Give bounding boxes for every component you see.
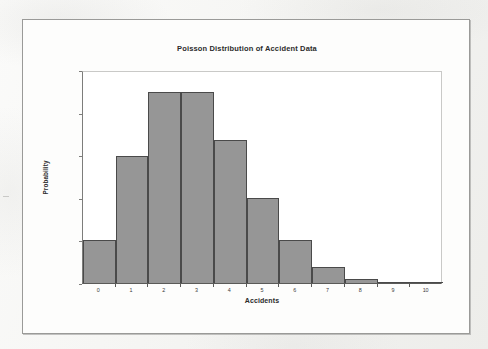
x-tick-mark [246,284,247,287]
x-tick-mark [311,284,312,287]
bar-9 [378,282,411,283]
scan-speck-artifact [443,336,457,343]
scanned-page-background: Poisson Distribution of Accident Data Pr… [0,0,488,349]
x-tick-mark [344,284,345,287]
bar-6 [279,240,312,283]
bar-1 [116,156,149,283]
x-tick-label-3: 3 [195,287,198,293]
x-tick-label-2: 2 [162,287,165,293]
plot-area [82,71,442,284]
y-axis-title: Probability [42,71,54,284]
x-tick-mark [278,284,279,287]
figure-outer-border: Poisson Distribution of Accident Data Pr… [22,19,470,334]
y-tick-mark [79,284,82,285]
bars-layer [83,72,441,283]
x-tick-label-10: 10 [423,287,429,293]
bar-7 [312,267,345,283]
x-tick-label-7: 7 [326,287,329,293]
x-tick-label-8: 8 [359,287,362,293]
x-tick-mark [180,284,181,287]
x-tick-mark [213,284,214,287]
x-tick-label-6: 6 [293,287,296,293]
bar-4 [214,140,247,283]
x-tick-label-0: 0 [97,287,100,293]
bar-10 [410,282,443,283]
x-tick-label-4: 4 [228,287,231,293]
x-tick-label-1: 1 [130,287,133,293]
x-tick-mark [115,284,116,287]
x-tick-label-5: 5 [261,287,264,293]
x-axis-title: Accidents [82,297,442,304]
x-tick-label-9: 9 [391,287,394,293]
x-tick-mark [377,284,378,287]
bar-5 [247,198,280,283]
chart-title: Poisson Distribution of Accident Data [23,44,471,53]
x-tick-mark [409,284,410,287]
scan-edge-artifact [3,196,9,197]
bar-3 [181,92,214,283]
bar-0 [83,240,116,283]
bar-2 [148,92,181,283]
x-tick-mark [147,284,148,287]
bar-8 [345,279,378,283]
